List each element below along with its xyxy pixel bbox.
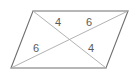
- label-upper-right-segment: 6: [86, 17, 92, 28]
- diagonal-top-right-to-bottom-left: [11, 11, 128, 68]
- parallelogram-diagram: 4 6 6 4: [0, 0, 139, 80]
- label-lower-right-segment: 4: [88, 43, 94, 54]
- label-lower-left-segment: 6: [33, 43, 39, 54]
- parallelogram-svg: [0, 0, 139, 80]
- label-upper-left-segment: 4: [55, 17, 61, 28]
